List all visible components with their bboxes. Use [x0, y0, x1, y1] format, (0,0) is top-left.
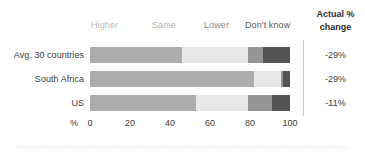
actual-change-value-avg-30-countries: -29% — [306, 47, 365, 63]
axis-tick-100: 100 — [282, 116, 297, 130]
bar-segment-dont-know — [283, 71, 290, 87]
actual-change-header-line1: Actual % — [306, 8, 365, 21]
actual-change-value-us: -11% — [306, 95, 365, 111]
bar-segment-higher — [90, 47, 182, 63]
axis-tick-40: 40 — [165, 116, 175, 130]
actual-change-value-south-africa: -29% — [306, 71, 365, 87]
table-row — [90, 71, 290, 87]
bar-segment-same — [196, 95, 248, 111]
bar-segment-higher — [90, 71, 254, 87]
bar-segment-same — [254, 71, 281, 87]
bottom-dotted-rule — [18, 147, 348, 148]
x-axis: % 0 20 40 60 80 100 — [0, 116, 365, 132]
bar-segment-dont-know — [263, 47, 290, 63]
legend-item-lower: Lower — [204, 18, 229, 32]
table-row — [90, 47, 290, 63]
actual-change-header: Actual % change — [306, 8, 365, 33]
legend-item-same: Same — [152, 18, 176, 32]
legend-item-dont-know: Don't know — [245, 18, 290, 32]
axis-unit-label: % — [56, 116, 78, 130]
table-row — [90, 95, 290, 111]
stacked-bar-chart: Higher Same Lower Don't know Actual % ch… — [0, 0, 365, 156]
row-label-south-africa: South Africa — [0, 71, 84, 87]
axis-tick-60: 60 — [205, 116, 215, 130]
bar-segment-lower — [248, 95, 272, 111]
bar-segment-higher — [90, 95, 196, 111]
axis-tick-80: 80 — [245, 116, 255, 130]
bar-segment-dont-know — [272, 95, 290, 111]
row-label-avg-30-countries: Avg. 30 countries — [0, 47, 84, 63]
row-label-us: US — [0, 95, 84, 111]
axis-tick-0: 0 — [87, 116, 92, 130]
right-column-divider — [303, 40, 304, 116]
bar-segment-lower — [248, 47, 263, 63]
legend-item-higher: Higher — [91, 18, 118, 32]
actual-change-header-line2: change — [306, 21, 365, 34]
axis-tick-20: 20 — [125, 116, 135, 130]
bar-segment-same — [182, 47, 248, 63]
